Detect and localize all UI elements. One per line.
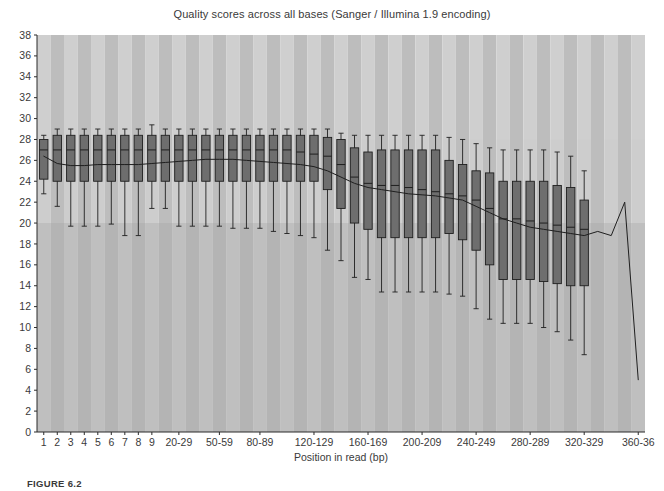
x-tick-label: 80-89 — [247, 436, 274, 448]
iqr-box — [202, 135, 210, 181]
iqr-box — [472, 171, 480, 250]
x-tick-label: 4 — [81, 436, 87, 448]
iqr-box — [67, 135, 75, 181]
y-tick-label: 38 — [19, 29, 31, 41]
iqr-box — [323, 137, 331, 189]
x-tick-label: 120-129 — [295, 436, 334, 448]
iqr-box — [148, 135, 156, 181]
y-tick-label: 8 — [25, 342, 31, 354]
iqr-box — [121, 135, 129, 181]
iqr-box — [418, 150, 426, 238]
iqr-box — [40, 139, 48, 179]
y-tick-label: 10 — [19, 321, 31, 333]
x-tick-label: 9 — [149, 436, 155, 448]
iqr-box — [283, 135, 291, 181]
plot-area-wrapper: 02468101214161820222426283032343638 1234… — [0, 0, 664, 470]
x-tick-label: 360-36 — [622, 436, 655, 448]
iqr-box — [310, 135, 318, 181]
y-tick-label: 18 — [19, 238, 31, 250]
y-tick-label: 24 — [19, 175, 31, 187]
iqr-box — [350, 148, 358, 223]
iqr-box — [296, 135, 304, 181]
x-tick-label: 20-29 — [165, 436, 192, 448]
quality-boxplot-svg: 02468101214161820222426283032343638 1234… — [0, 0, 664, 470]
y-tick-label: 26 — [19, 154, 31, 166]
x-tick-label: 320-329 — [565, 436, 604, 448]
iqr-box — [485, 173, 493, 265]
iqr-box — [499, 181, 507, 279]
x-tick-label: 240-249 — [457, 436, 496, 448]
x-tick-label: 280-289 — [511, 436, 550, 448]
y-tick-label: 4 — [25, 384, 31, 396]
x-axis-title: Position in read (bp) — [294, 451, 388, 463]
iqr-box — [134, 135, 142, 181]
y-tick-label: 12 — [19, 300, 31, 312]
iqr-box — [175, 135, 183, 181]
iqr-box — [337, 139, 345, 208]
x-tick-label: 7 — [122, 436, 128, 448]
y-tick-label: 32 — [19, 91, 31, 103]
iqr-box — [580, 200, 588, 286]
y-tick-label: 28 — [19, 133, 31, 145]
iqr-box — [539, 181, 547, 281]
y-tick-label: 36 — [19, 49, 31, 61]
x-tick-label: 160-169 — [349, 436, 388, 448]
iqr-box — [161, 135, 169, 181]
x-tick-label: 1 — [41, 436, 47, 448]
y-tick-label: 30 — [19, 112, 31, 124]
x-tick-label: 200-209 — [403, 436, 442, 448]
iqr-box — [512, 181, 520, 279]
x-tick-label: 3 — [68, 436, 74, 448]
x-tick-label: 5 — [95, 436, 101, 448]
y-tick-label: 14 — [19, 279, 31, 291]
x-tick-label: 8 — [135, 436, 141, 448]
iqr-box — [567, 188, 575, 286]
y-tick-label: 16 — [19, 258, 31, 270]
figure-container: Quality scores across all bases (Sanger … — [0, 0, 664, 491]
iqr-box — [431, 150, 439, 238]
x-axis-ticks-group: 12345678920-2950-5980-89120-129160-16920… — [41, 432, 655, 448]
iqr-box — [242, 135, 250, 181]
iqr-box — [391, 150, 399, 238]
iqr-box — [256, 135, 264, 181]
iqr-box — [445, 160, 453, 233]
y-axis-ticks-group: 02468101214161820222426283032343638 — [19, 29, 37, 438]
x-tick-label: 6 — [108, 436, 114, 448]
iqr-box — [364, 152, 372, 229]
iqr-box — [377, 150, 385, 238]
y-tick-label: 6 — [25, 363, 31, 375]
x-tick-label: 50-59 — [206, 436, 233, 448]
iqr-box — [526, 181, 534, 279]
iqr-box — [215, 135, 223, 181]
x-axis-title-group: Position in read (bp) — [294, 451, 388, 463]
iqr-box — [53, 135, 61, 181]
y-tick-label: 2 — [25, 405, 31, 417]
y-tick-label: 20 — [19, 217, 31, 229]
iqr-box — [458, 165, 466, 240]
y-tick-label: 0 — [25, 426, 31, 438]
iqr-box — [94, 135, 102, 181]
figure-caption: FIGURE 6.2 — [27, 478, 82, 489]
x-tick-label: 2 — [54, 436, 60, 448]
iqr-box — [107, 135, 115, 181]
y-tick-label: 34 — [19, 70, 31, 82]
iqr-box — [553, 185, 561, 283]
y-tick-label: 22 — [19, 196, 31, 208]
iqr-box — [269, 135, 277, 181]
iqr-box — [188, 135, 196, 181]
iqr-box — [229, 135, 237, 181]
iqr-box — [80, 135, 88, 181]
